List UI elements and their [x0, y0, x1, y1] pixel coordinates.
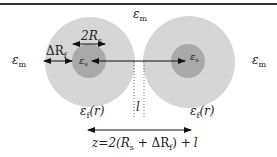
- gap-label: l: [136, 100, 140, 114]
- separation-label: z=2(Rs + ΔRf) +l: [91, 136, 198, 152]
- medium-label-left: εm: [12, 53, 26, 69]
- shell-label-right: εf(r): [190, 104, 215, 120]
- shell-label-left: εf(r): [80, 104, 105, 120]
- right-sphere: [143, 16, 235, 108]
- medium-label-right: εm: [252, 53, 266, 69]
- top-rule: [0, 3, 277, 5]
- coated-spheres-diagram: εm εm εm εs εs 2Rs ΔRf εf(r) εf(r) l z=2…: [0, 0, 277, 157]
- medium-label-top: εm: [133, 7, 147, 23]
